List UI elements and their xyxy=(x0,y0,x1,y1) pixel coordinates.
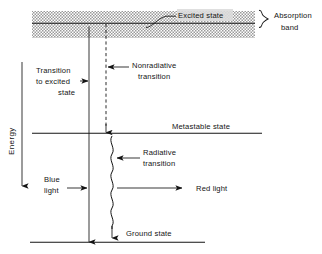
energy-axis-label: Energy xyxy=(7,127,16,155)
transition-to-excited-label-line3: state xyxy=(58,88,75,97)
absorption-band-label-line2: band xyxy=(281,23,299,32)
energy-level-diagram: Excited state Absorption band Energy Tra… xyxy=(0,0,322,254)
radiative-transition-wavy-line xyxy=(111,136,113,229)
blue-light-label-line2: light xyxy=(44,186,59,195)
absorption-band-brace xyxy=(259,10,268,27)
blue-light-label-line1: Blue xyxy=(44,175,60,184)
transition-to-excited-label-line1: Transition xyxy=(36,66,71,75)
nonradiative-label-line1: Nonradiative xyxy=(132,61,176,70)
nonradiative-label-line2: transition xyxy=(138,72,170,81)
absorption-band-label-line1: Absorption xyxy=(274,11,312,20)
excited-state-label: Excited state xyxy=(178,11,223,20)
radiative-label-line1: Radiative xyxy=(143,148,176,157)
transition-to-excited-label-line2: to excited xyxy=(36,77,70,86)
metastable-state-label: Metastable state xyxy=(172,122,230,131)
ground-state-label: Ground state xyxy=(126,229,172,238)
radiative-label-line2: transition xyxy=(143,159,175,168)
red-light-label: Red light xyxy=(196,184,228,193)
